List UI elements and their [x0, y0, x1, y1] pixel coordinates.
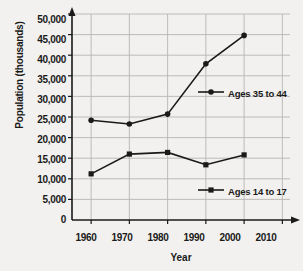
legend-label-series-1: Ages 35 to 44 — [228, 88, 287, 99]
x-axis-arrow — [291, 217, 300, 224]
x-tick-label: 2010 — [242, 232, 290, 243]
legend-label-series-2: Ages 14 to 17 — [228, 186, 287, 197]
x-axis-title: Year — [72, 252, 290, 263]
plot-area — [0, 0, 303, 271]
y-axis-arrow — [69, 7, 76, 16]
legend-markers — [198, 89, 224, 192]
line-chart: Population (thousands) 50,000 45,000 40,… — [0, 0, 303, 271]
